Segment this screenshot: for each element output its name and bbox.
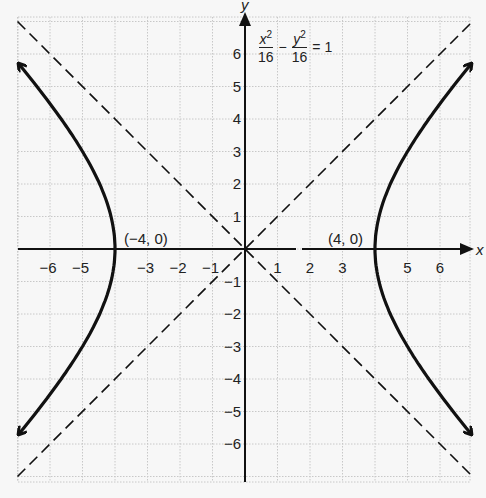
minus-sign: − — [279, 39, 287, 55]
vertex-label-left: (−4, 0) — [124, 230, 168, 247]
x-tick-label: −3 — [137, 259, 154, 276]
y-tick-label: −1 — [224, 273, 241, 290]
y-fraction: y2 16 — [292, 30, 308, 64]
y-tick-label: −4 — [224, 370, 241, 387]
x-axis-label: x — [475, 241, 484, 258]
y-tick-label: −5 — [224, 403, 241, 420]
y-tick-label: −3 — [224, 338, 241, 355]
x-tick-label: −6 — [39, 259, 56, 276]
y-tick-label: 4 — [233, 110, 241, 127]
y-tick-label: 5 — [233, 78, 241, 95]
x-tick-label: 1 — [273, 259, 281, 276]
hyperbola-chart: xy −6−5−3−2−112356654321−1−2−3−4−5−6 (−4… — [0, 0, 486, 498]
equals-one: = 1 — [312, 39, 332, 55]
y-tick-label: −6 — [224, 435, 241, 452]
x-tick-label: −2 — [169, 259, 186, 276]
vertex-label-right: (4, 0) — [328, 230, 363, 247]
x-tick-label: −1 — [202, 259, 219, 276]
equation-label: x2 16 − y2 16 = 1 — [258, 30, 332, 64]
y-tick-label: 2 — [233, 175, 241, 192]
x-tick-label: 6 — [436, 259, 444, 276]
x-tick-label: 5 — [403, 259, 411, 276]
x-tick-label: 3 — [338, 259, 346, 276]
x-tick-label: 2 — [306, 259, 314, 276]
y-tick-label: 3 — [233, 143, 241, 160]
y-tick-label: 1 — [233, 208, 241, 225]
y-tick-label: 6 — [233, 45, 241, 62]
y-tick-label: −2 — [224, 305, 241, 322]
x-tick-label: −5 — [72, 259, 89, 276]
x-fraction: x2 16 — [258, 30, 274, 64]
